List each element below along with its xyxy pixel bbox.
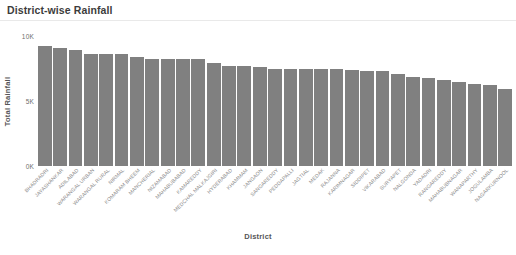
bar[interactable] (191, 59, 205, 166)
y-axis: 0K5K10K (0, 36, 38, 166)
bar[interactable] (53, 48, 67, 166)
bar[interactable] (391, 74, 405, 166)
bar[interactable] (176, 59, 190, 166)
bar-series (38, 36, 512, 166)
x-tick-slot: WARANGAL URBAN (84, 166, 98, 226)
x-tick-slot: NIZAMABAD (161, 166, 175, 226)
x-tick-slot: JANGAON (253, 166, 267, 226)
x-axis-tick-labels: BHADRADRIJAYASHANKARADILABADWARANGAL URB… (38, 166, 512, 226)
x-tick-slot: MEDCHAL MALKAJGIRI (207, 166, 221, 226)
bar[interactable] (130, 57, 144, 166)
bar[interactable] (84, 54, 98, 166)
bar[interactable] (468, 84, 482, 166)
x-tick-slot: BHADRADRI (38, 166, 52, 226)
x-tick-slot: MAHABUBNAGAR (452, 166, 466, 226)
bar[interactable] (161, 59, 175, 166)
bar[interactable] (222, 66, 236, 166)
bar[interactable] (437, 80, 451, 166)
x-tick-slot: PEDDAPALLI (284, 166, 298, 226)
title-divider (0, 20, 516, 21)
x-tick-slot: RANGAREDDY (437, 166, 451, 226)
bar[interactable] (253, 67, 267, 166)
bar[interactable] (483, 85, 497, 166)
bar[interactable] (422, 78, 436, 166)
bar[interactable] (360, 71, 374, 166)
x-tick-slot: JAGTIAL (299, 166, 313, 226)
x-tick-slot: HYDERABAD (222, 166, 236, 226)
bar[interactable] (376, 71, 390, 166)
bar[interactable] (268, 69, 282, 167)
x-tick-slot: KARIMNAGAR (345, 166, 359, 226)
bar[interactable] (99, 54, 113, 166)
plot-area (38, 36, 512, 166)
bar[interactable] (115, 54, 129, 166)
y-tick-label: 5K (26, 98, 34, 105)
x-tick-slot: NIRMAL (115, 166, 129, 226)
x-tick-slot: SANGAREDDY (268, 166, 282, 226)
bar[interactable] (145, 59, 159, 166)
x-tick-slot: MEDAK (314, 166, 328, 226)
bar[interactable] (207, 63, 221, 166)
x-tick-slot: RAJANNA (330, 166, 344, 226)
bar[interactable] (299, 69, 313, 166)
bar[interactable] (237, 66, 251, 166)
bar[interactable] (345, 70, 359, 166)
bar[interactable] (406, 77, 420, 166)
y-tick-label: 0K (26, 163, 34, 170)
y-tick-label: 10K (22, 33, 34, 40)
x-tick-slot: SURYAPET (391, 166, 405, 226)
bar[interactable] (38, 46, 52, 166)
x-tick-slot: KHAMMAM (237, 166, 251, 226)
x-tick-slot: JOGULAMBA (483, 166, 497, 226)
chart-title: District-wise Rainfall (7, 4, 112, 16)
x-tick-slot: SIDDIPET (360, 166, 374, 226)
x-tick-slot: NALGONDA (406, 166, 420, 226)
x-tick-slot: VIKARABAD (376, 166, 390, 226)
x-axis-title: District (0, 232, 516, 241)
bar[interactable] (498, 89, 512, 166)
chart-page: District-wise Rainfall Total Rainfall 0K… (0, 0, 516, 255)
bar[interactable] (314, 69, 328, 166)
bar[interactable] (284, 69, 298, 166)
x-tick-slot: KOMARAM BHEEM (130, 166, 144, 226)
x-tick-slot: NAGARKURNOOL (498, 166, 512, 226)
bar[interactable] (452, 82, 466, 166)
bar[interactable] (330, 69, 344, 166)
bar[interactable] (69, 50, 83, 166)
